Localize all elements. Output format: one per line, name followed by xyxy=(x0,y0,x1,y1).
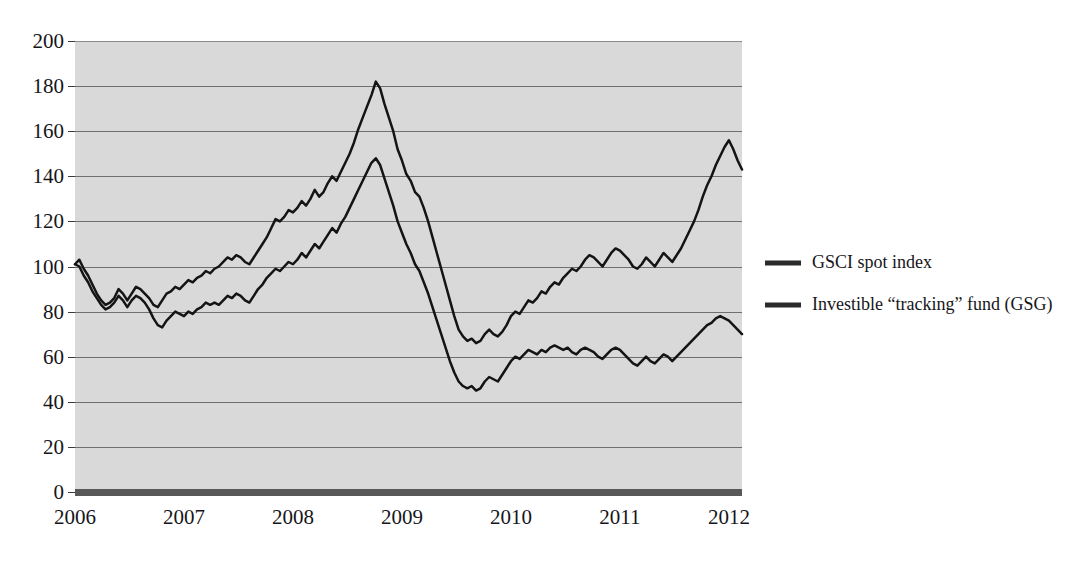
y-axis-tick-label: 40 xyxy=(43,390,64,414)
y-axis-tick-label: 100 xyxy=(33,255,65,279)
y-axis-tick-label: 140 xyxy=(33,164,65,188)
y-axis-tick-label: 120 xyxy=(33,209,65,233)
x-axis-tick-label: 2006 xyxy=(54,505,96,529)
y-axis-tick-label: 60 xyxy=(43,345,64,369)
x-axis-tick-label: 2007 xyxy=(163,505,205,529)
x-axis-tick-label: 2009 xyxy=(381,505,423,529)
x-axis-tick-label: 2012 xyxy=(708,505,750,529)
y-axis-tick-label: 200 xyxy=(33,29,65,53)
y-axis-tick-label: 180 xyxy=(33,74,65,98)
x-axis-line xyxy=(75,489,742,496)
legend-label-0: GSCI spot index xyxy=(812,252,932,272)
line-chart: 020406080100120140160180200 200620072008… xyxy=(0,0,1090,562)
y-axis-tick-label: 160 xyxy=(33,119,65,143)
chart-container: 020406080100120140160180200 200620072008… xyxy=(0,0,1090,562)
y-axis-tick-label: 20 xyxy=(43,435,64,459)
legend-label-1: Investible “tracking” fund (GSG) xyxy=(812,294,1052,315)
x-axis-tick-label: 2011 xyxy=(599,505,640,529)
x-axis-tick-label: 2008 xyxy=(272,505,314,529)
plot-area-background xyxy=(75,41,742,492)
x-axis-tick-label: 2010 xyxy=(490,505,532,529)
y-axis-tick-label: 80 xyxy=(43,300,64,324)
y-axis-tick-label: 0 xyxy=(54,480,65,504)
